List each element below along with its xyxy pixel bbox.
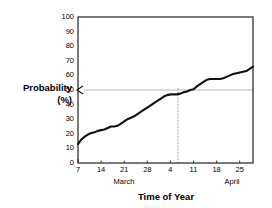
x-tick-label-apr-25: 25 [230,166,250,174]
x-tick-label-apr-11: 11 [184,166,204,174]
probability-chart: Probability (%) 100 90 80 70 60 50 40 30… [0,0,272,208]
data-series-line [78,67,253,144]
x-axis-ticks [78,159,240,163]
x-tick-label-apr-18: 18 [207,166,227,174]
x-group-label-april: April [212,178,252,186]
x-tick-label-mar-14: 14 [91,166,111,174]
x-tick-label-mar-7: 7 [68,166,88,174]
x-tick-label-mar-28: 28 [137,166,157,174]
x-axis-title: Time of Year [78,191,254,202]
x-tick-label-mar-21: 21 [114,166,134,174]
x-group-label-march: March [104,178,144,186]
x-tick-label-apr-4: 4 [160,166,180,174]
